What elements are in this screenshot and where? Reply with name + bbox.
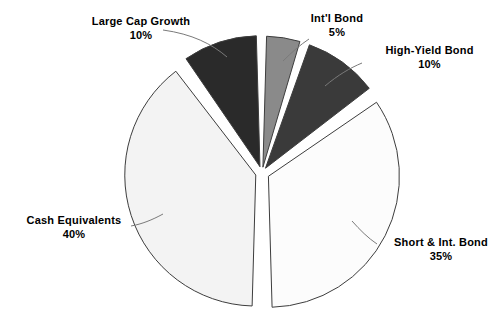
pie-label-value: 35%	[379, 249, 503, 263]
pie-label-value: 10%	[71, 28, 211, 42]
pie-label-short-int-bond: Short & Int. Bond 35%	[379, 235, 503, 263]
pie-chart: Large Cap Growth 10% Int'l Bond 5% High-…	[0, 0, 503, 323]
pie-slices-group	[125, 36, 400, 307]
pie-label-name: Large Cap Growth	[71, 14, 211, 28]
pie-label-name: High-Yield Bond	[363, 43, 496, 57]
pie-label-cash-equivalents: Cash Equivalents 40%	[6, 213, 142, 241]
pie-label-name: Int'l Bond	[283, 11, 391, 25]
pie-label-large-cap-growth: Large Cap Growth 10%	[71, 14, 211, 42]
pie-label-value: 5%	[283, 25, 391, 39]
pie-label-name: Short & Int. Bond	[379, 235, 503, 249]
pie-label-value: 10%	[363, 57, 496, 71]
pie-label-high-yield-bond: High-Yield Bond 10%	[363, 43, 496, 71]
pie-label-value: 40%	[6, 227, 142, 241]
pie-label-intl-bond: Int'l Bond 5%	[283, 11, 391, 39]
pie-label-name: Cash Equivalents	[6, 213, 142, 227]
